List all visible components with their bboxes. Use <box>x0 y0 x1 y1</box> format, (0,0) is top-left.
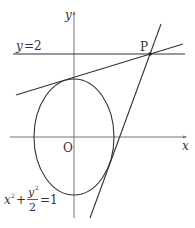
point-p-label: P <box>140 40 148 54</box>
eq-num: y <box>27 186 35 199</box>
eq-rhs: =1 <box>40 193 58 207</box>
eq-plus: + <box>16 193 26 207</box>
origin-label: O <box>63 141 73 155</box>
eq-num-exp: 2 <box>35 184 39 191</box>
line-label-eq: =2 <box>24 39 42 53</box>
ellipse-equation: x 2 + y 2 2 =1 <box>4 184 58 214</box>
eq-x-exp: 2 <box>11 192 15 199</box>
eq-den: 2 <box>29 201 36 214</box>
x-axis-label: x <box>182 139 189 153</box>
line-label-var: y <box>15 39 23 53</box>
eq-x: x <box>4 193 11 207</box>
y-axis-arrow-icon <box>73 11 76 15</box>
y-axis-label: y <box>64 8 72 22</box>
diagram-canvas: y x O y =2 P x 2 + y 2 2 =1 <box>0 0 195 228</box>
point-p-marker <box>148 52 152 56</box>
